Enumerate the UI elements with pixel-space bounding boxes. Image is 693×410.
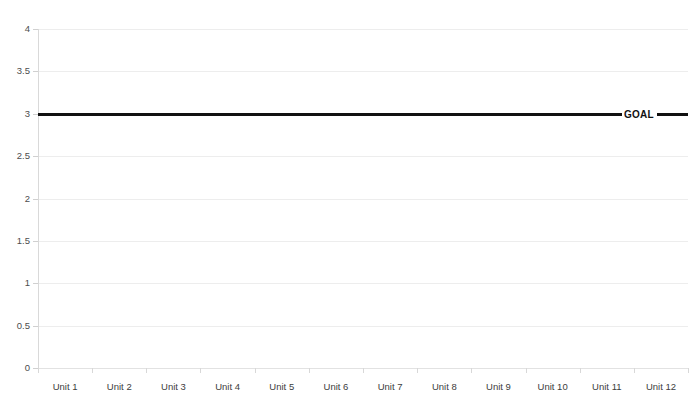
x-tick-label-unit-3: Unit 3: [146, 381, 200, 397]
x-tick-mark-9: [526, 368, 527, 373]
x-tick-label-unit-10: Unit 10: [526, 381, 580, 397]
x-tick-mark-10: [580, 368, 581, 373]
y-tick-label-1: 1: [2, 278, 30, 288]
y-tick-mark-1: [33, 283, 38, 284]
x-tick-mark-7: [417, 368, 418, 373]
gridline-1: [38, 283, 688, 284]
y-tick-mark-2-5: [33, 156, 38, 157]
y-tick-label-2: 2: [2, 194, 30, 204]
y-axis-line: [38, 29, 39, 369]
x-axis-tick-labels: Unit 1 Unit 2 Unit 3 Unit 4 Unit 5 Unit …: [38, 381, 688, 397]
gridline-0-5: [38, 326, 688, 327]
x-tick-label-unit-11: Unit 11: [580, 381, 634, 397]
gridline-2-5: [38, 156, 688, 157]
goal-line-label: GOAL: [624, 109, 654, 120]
x-tick-label-unit-7: Unit 7: [363, 381, 417, 397]
y-tick-label-0-5: 0.5: [2, 321, 30, 331]
y-tick-mark-1-5: [33, 241, 38, 242]
y-tick-mark-4: [33, 29, 38, 30]
x-tick-label-unit-12: Unit 12: [634, 381, 688, 397]
y-tick-label-3: 3: [2, 109, 30, 119]
gridline-1-5: [38, 241, 688, 242]
y-tick-mark-0-5: [33, 326, 38, 327]
chart-container: 4 3.5 3 2.5 2 1.5 1 0.5 0 Unit 1 Unit 2 …: [0, 0, 693, 410]
y-tick-label-1-5: 1.5: [2, 236, 30, 246]
gridline-4: [38, 29, 688, 30]
x-tick-mark-6: [363, 368, 364, 373]
x-tick-mark-11: [634, 368, 635, 373]
y-axis-tick-labels: 4 3.5 3 2.5 2 1.5 1 0.5 0: [0, 0, 30, 410]
x-tick-mark-1: [92, 368, 93, 373]
x-tick-label-unit-6: Unit 6: [309, 381, 363, 397]
y-tick-label-3-5: 3.5: [2, 66, 30, 76]
x-tick-mark-4: [255, 368, 256, 373]
x-tick-mark-5: [309, 368, 310, 373]
x-tick-label-unit-1: Unit 1: [38, 381, 92, 397]
x-tick-mark-8: [471, 368, 472, 373]
x-tick-mark-3: [200, 368, 201, 373]
gridline-3-5: [38, 71, 688, 72]
y-tick-label-2-5: 2.5: [2, 151, 30, 161]
x-tick-mark-0: [38, 368, 39, 373]
goal-reference-line-left: [38, 113, 622, 116]
gridline-2: [38, 199, 688, 200]
x-tick-mark-12: [688, 368, 689, 373]
chart-title: [0, 0, 693, 3]
y-tick-label-4: 4: [2, 24, 30, 34]
x-tick-label-unit-9: Unit 9: [471, 381, 525, 397]
x-tick-label-unit-8: Unit 8: [417, 381, 471, 397]
plot-area: [38, 29, 688, 368]
y-tick-label-0: 0: [2, 363, 30, 373]
x-tick-label-unit-5: Unit 5: [255, 381, 309, 397]
y-tick-mark-2: [33, 199, 38, 200]
y-tick-mark-3-5: [33, 71, 38, 72]
x-tick-label-unit-2: Unit 2: [92, 381, 146, 397]
x-tick-mark-2: [146, 368, 147, 373]
x-tick-label-unit-4: Unit 4: [201, 381, 255, 397]
goal-reference-line-right: [657, 113, 688, 116]
